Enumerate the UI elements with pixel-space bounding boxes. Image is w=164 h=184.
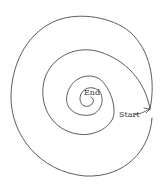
- start-label: Start: [119, 111, 140, 119]
- spiral-diagram: End Start: [0, 0, 164, 184]
- spiral-line: [11, 16, 152, 176]
- end-label: End: [84, 89, 100, 97]
- spiral-path-graphic: [0, 0, 164, 184]
